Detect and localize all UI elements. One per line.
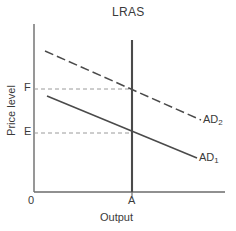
y-tick-label-f: F bbox=[24, 82, 31, 93]
x-tick-label-a: A bbox=[128, 195, 135, 206]
ad2-label: AD2 bbox=[203, 114, 223, 125]
ad-lras-diagram: LRAS AD2 AD1 F E 0 A Output Price level bbox=[0, 0, 236, 231]
ad2-label-base: AD bbox=[203, 113, 218, 125]
lras-label: LRAS bbox=[112, 6, 145, 18]
x-axis-title: Output bbox=[100, 212, 133, 223]
ad1-label-base: AD bbox=[199, 151, 214, 163]
ad1-curve bbox=[47, 96, 197, 158]
diagram-canvas bbox=[0, 0, 236, 231]
y-tick-label-e: E bbox=[24, 126, 31, 137]
ad1-label: AD1 bbox=[199, 152, 219, 163]
y-axis-title: Price level bbox=[6, 85, 17, 136]
ad2-label-subscript: 2 bbox=[218, 118, 222, 127]
ad1-label-subscript: 1 bbox=[214, 156, 218, 165]
ad2-curve bbox=[45, 51, 201, 120]
origin-label: 0 bbox=[28, 195, 34, 206]
